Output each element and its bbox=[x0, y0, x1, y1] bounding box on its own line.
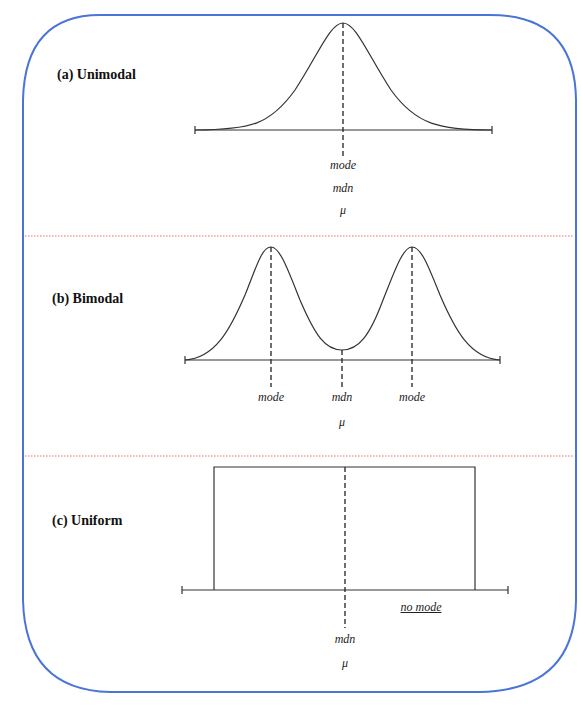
unimodal-mode-label: mode bbox=[330, 158, 356, 173]
bimodal-mean-label: μ bbox=[339, 415, 345, 430]
bimodal-curve bbox=[185, 247, 500, 360]
unimodal-chart bbox=[195, 23, 492, 157]
distribution-shapes-diagram bbox=[0, 0, 581, 706]
bimodal-mode-left-label: mode bbox=[258, 390, 284, 405]
uniform-no-mode-label: no mode bbox=[401, 600, 442, 615]
unimodal-mean-label: μ bbox=[340, 203, 346, 218]
unimodal-median-label: mdn bbox=[333, 181, 354, 196]
uniform-title: (c) Uniform bbox=[52, 513, 122, 529]
bimodal-mode-right-label: mode bbox=[399, 390, 425, 405]
bimodal-title: (b) Bimodal bbox=[52, 291, 123, 307]
uniform-median-label: mdn bbox=[335, 632, 356, 647]
uniform-chart bbox=[182, 467, 508, 628]
bimodal-chart bbox=[185, 247, 500, 387]
bimodal-median-label: mdn bbox=[332, 390, 353, 405]
unimodal-title: (a) Unimodal bbox=[57, 67, 136, 83]
uniform-mean-label: μ bbox=[342, 656, 348, 671]
